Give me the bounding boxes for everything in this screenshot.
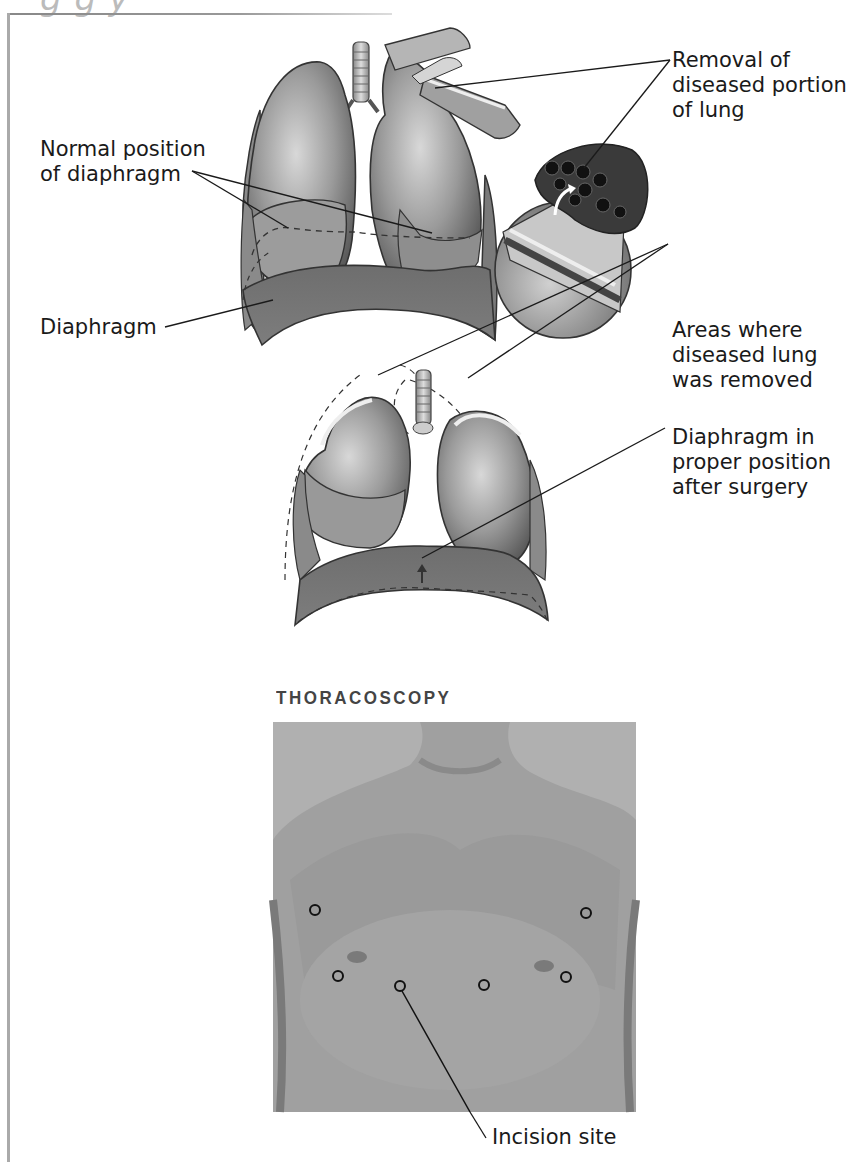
label-areas-removed: Areas where diseased lung was removed [672, 318, 818, 393]
upper-lungs [241, 28, 520, 345]
label-incision-site: Incision site [492, 1125, 616, 1150]
incision-leader-line [470, 1112, 486, 1138]
thoracoscopy-title: THORACOSCOPY [276, 687, 451, 709]
label-normal-position: Normal position of diaphragm [40, 137, 206, 187]
label-diaphragm: Diaphragm [40, 315, 157, 340]
label-diaphragm-proper: Diaphragm in proper position after surge… [672, 425, 831, 500]
label-removal: Removal of diseased portion of lung [672, 48, 847, 123]
thoracoscopy-photo [273, 722, 636, 1112]
lower-lungs [285, 365, 548, 625]
